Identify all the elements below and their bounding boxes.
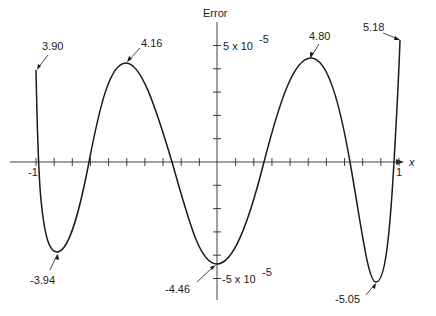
annotation-4.16: 4.16 xyxy=(127,37,162,62)
svg-text:-5: -5 xyxy=(262,266,272,278)
annotation-3.90: 3.90 xyxy=(37,40,63,70)
error-chart: Error x -1 1 5 x 10 -5 -5 x 10 -5 3.90 4… xyxy=(0,0,436,316)
svg-text:-4.46: -4.46 xyxy=(165,283,190,295)
x-axis-arrow-icon xyxy=(396,159,404,165)
y-tick-label-neg: -5 x 10 -5 xyxy=(222,266,272,285)
svg-text:3.90: 3.90 xyxy=(42,40,63,52)
svg-text:5.18: 5.18 xyxy=(363,21,384,33)
svg-text:-3.94: -3.94 xyxy=(30,274,55,286)
y-axis xyxy=(213,22,221,300)
svg-text:4.80: 4.80 xyxy=(309,30,330,42)
svg-text:5 x 10: 5 x 10 xyxy=(223,40,253,52)
x-axis-title: x xyxy=(408,156,415,168)
y-axis-title: Error xyxy=(203,7,228,19)
annotation-5.18: 5.18 xyxy=(363,21,400,40)
x-tick-label-min: -1 xyxy=(28,166,38,178)
y-tick-label-pos: 5 x 10 -5 xyxy=(223,33,269,52)
x-axis xyxy=(10,158,404,166)
annotation-4.46: -4.46 xyxy=(165,265,216,295)
svg-text:-5.05: -5.05 xyxy=(335,293,360,305)
annotation-5.05: -5.05 xyxy=(335,283,376,305)
x-tick-label-max: 1 xyxy=(396,166,402,178)
annotation-4.80: 4.80 xyxy=(309,30,330,58)
svg-text:-5: -5 xyxy=(259,33,269,45)
annotation-3.94: -3.94 xyxy=(30,254,59,286)
svg-text:4.16: 4.16 xyxy=(141,37,162,49)
svg-text:-5 x 10: -5 x 10 xyxy=(222,273,256,285)
